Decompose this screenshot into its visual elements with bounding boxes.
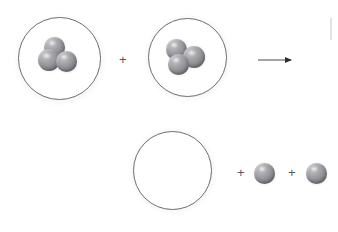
- reaction-arrow: [258, 55, 291, 65]
- cropped-text-artifact: [24, 0, 144, 3]
- free-atom-1: [254, 163, 275, 184]
- reaction-arrow-head: [285, 57, 292, 63]
- product-vessel-empty: [133, 131, 212, 210]
- operator-plus-products-2: +: [288, 166, 296, 179]
- reactant-2-atom-bottom: [168, 54, 189, 75]
- operator-plus-products-1: +: [237, 166, 245, 179]
- right-edge-fragment: [330, 18, 332, 40]
- reactant-1-atom-lower-right: [56, 51, 77, 72]
- free-atom-2: [306, 163, 327, 184]
- operator-plus-reactants: +: [119, 53, 127, 66]
- diagram-canvas: + + +: [0, 0, 338, 232]
